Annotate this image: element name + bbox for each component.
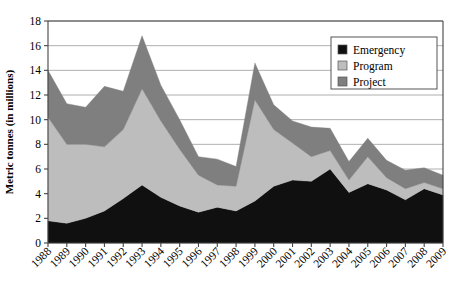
x-tick-label: 1996 (179, 245, 204, 270)
x-tick-label: 1989 (47, 245, 72, 270)
x-tick-label: 1999 (236, 245, 261, 270)
y-tick-label: 18 (30, 15, 42, 27)
legend-swatch-project (338, 77, 347, 86)
chart-figure: 0246810121416181988198919901991199219931… (0, 0, 457, 288)
x-tick-label: 1997 (198, 245, 223, 270)
x-tick-label: 2006 (367, 245, 392, 270)
y-tick-label: 6 (35, 163, 41, 175)
legend-label-program: Program (353, 60, 393, 73)
y-tick-label: 2 (35, 212, 41, 224)
x-tick-label: 2004 (330, 245, 355, 270)
y-tick-label: 10 (30, 114, 42, 126)
y-tick-label: 14 (30, 64, 42, 76)
x-tick-label: 1995 (160, 245, 185, 270)
x-axis-ticks: 1988198919901991199219931994199519961997… (29, 243, 449, 270)
y-tick-label: 4 (35, 188, 41, 200)
x-tick-label: 2003 (311, 245, 336, 270)
x-tick-label: 1991 (85, 245, 110, 270)
legend-label-emergency: Emergency (353, 44, 405, 57)
chart-legend: EmergencyProgramProject (331, 37, 437, 89)
x-tick-label: 1988 (29, 245, 54, 270)
x-tick-label: 1992 (104, 245, 129, 270)
x-tick-label: 2000 (254, 245, 279, 270)
legend-swatch-program (338, 61, 347, 70)
legend-swatch-emergency (338, 45, 347, 54)
y-tick-label: 8 (35, 138, 41, 150)
x-tick-label: 1990 (66, 245, 91, 270)
y-axis-ticks: 024681012141618 (30, 15, 49, 249)
y-tick-label: 16 (30, 40, 42, 52)
x-tick-label: 2001 (273, 245, 298, 270)
x-tick-label: 2005 (348, 245, 373, 270)
stacked-area-chart: 0246810121416181988198919901991199219931… (0, 0, 457, 288)
legend-label-project: Project (353, 76, 386, 89)
x-tick-label: 2009 (424, 245, 449, 270)
x-tick-label: 1993 (123, 245, 148, 270)
x-tick-label: 2008 (405, 245, 430, 270)
y-axis-title: Metric tonnes (in millions) (3, 69, 16, 194)
x-tick-label: 1994 (142, 245, 167, 270)
x-tick-label: 2002 (292, 245, 317, 270)
x-tick-label: 2007 (386, 245, 411, 270)
x-tick-label: 1998 (217, 245, 242, 270)
y-tick-label: 0 (35, 237, 41, 249)
y-tick-label: 12 (30, 89, 42, 101)
